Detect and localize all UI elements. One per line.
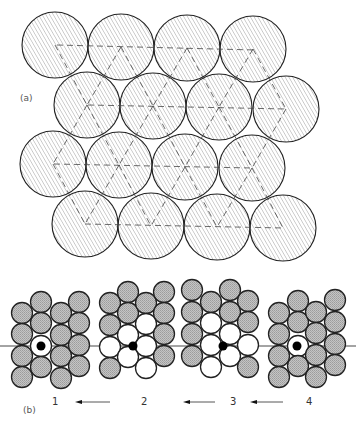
substrate-atom — [306, 302, 327, 323]
cluster-step-3 — [182, 280, 259, 378]
substrate-atom — [269, 367, 290, 388]
substrate-atom — [288, 291, 309, 312]
displaced-atom — [136, 358, 157, 379]
left-arrow-icon — [183, 400, 215, 404]
substrate-atom — [201, 292, 222, 313]
cluster-step-1 — [12, 292, 90, 389]
displaced-atom — [201, 357, 222, 378]
substrate-atom — [12, 346, 33, 367]
substrate-atom — [31, 292, 52, 313]
substrate-atom — [12, 324, 33, 345]
adatom-dot — [129, 342, 138, 351]
step-4-label: 4 — [306, 397, 312, 407]
displaced-atom — [201, 335, 222, 356]
step-arrows — [75, 400, 283, 404]
adatom-dot — [37, 342, 46, 351]
substrate-atom — [154, 282, 175, 303]
step-3-label: 3 — [230, 397, 236, 407]
substrate-atom — [325, 312, 346, 333]
cluster-step-4 — [269, 290, 346, 388]
substrate-atom — [325, 290, 346, 311]
substrate-atom — [69, 335, 90, 356]
substrate-atom — [182, 324, 203, 345]
substrate-atom — [306, 367, 327, 388]
substrate-atom — [182, 302, 203, 323]
adatom-dot — [219, 342, 228, 351]
surface-diffusion-steps — [12, 280, 346, 389]
left-arrow-icon — [75, 400, 110, 404]
substrate-atom — [154, 303, 175, 324]
substrate-atom — [325, 334, 346, 355]
substrate-atom — [306, 323, 327, 344]
part-b-label: (b) — [23, 406, 36, 415]
substrate-atom — [12, 367, 33, 388]
substrate-atom — [31, 357, 52, 378]
substrate-atom — [100, 358, 121, 379]
substrate-atom — [154, 324, 175, 345]
substrate-atom — [182, 346, 203, 367]
adatom-dot — [293, 342, 302, 351]
substrate-atom — [269, 303, 290, 324]
atomic-packing-diagram — [0, 0, 356, 423]
step-2-label: 2 — [141, 397, 147, 407]
part-a-label: (a) — [20, 94, 33, 103]
substrate-atom — [154, 346, 175, 367]
substrate-atom — [306, 345, 327, 366]
displaced-atom — [220, 324, 241, 345]
left-arrow-icon — [250, 400, 283, 404]
substrate-atom — [238, 357, 259, 378]
substrate-atom — [238, 312, 259, 333]
substrate-atom — [220, 280, 241, 301]
substrate-atom — [31, 313, 52, 334]
substrate-atom — [118, 282, 139, 303]
substrate-atom — [325, 355, 346, 376]
displaced-atom — [238, 335, 259, 356]
displaced-atom — [201, 313, 222, 334]
substrate-atom — [51, 368, 72, 389]
close-packed-layer-a — [20, 12, 319, 261]
substrate-atom — [69, 292, 90, 313]
substrate-atom — [288, 356, 309, 377]
substrate-atom — [269, 324, 290, 345]
substrate-atom — [69, 356, 90, 377]
cluster-step-2 — [100, 282, 175, 379]
substrate-atom — [238, 291, 259, 312]
substrate-atom — [182, 280, 203, 301]
substrate-atom — [269, 346, 290, 367]
substrate-atom — [12, 303, 33, 324]
substrate-atom — [69, 313, 90, 334]
step-1-label: 1 — [52, 397, 58, 407]
